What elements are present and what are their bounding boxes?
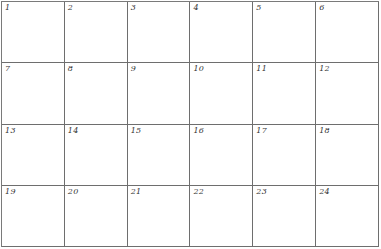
grid-cell-13: 13 [2, 125, 65, 186]
grid-cell-4: 4 [190, 2, 253, 63]
grid-cell-24: 24 [316, 186, 379, 247]
grid-cell-2: 2 [65, 2, 128, 63]
grid-cell-22: 22 [190, 186, 253, 247]
cell-number: 3 [131, 3, 136, 12]
cell-number: 12 [319, 64, 330, 73]
cell-number: 14 [68, 126, 79, 135]
cell-number: 11 [256, 64, 267, 73]
grid-cell-7: 7 [2, 63, 65, 124]
cell-number: 21 [131, 187, 142, 196]
grid-cell-1: 1 [2, 2, 65, 63]
cell-number: 17 [256, 126, 267, 135]
grid-cell-14: 14 [65, 125, 128, 186]
grid-cell-8: 8 [65, 63, 128, 124]
grid-cell-21: 21 [128, 186, 191, 247]
grid-cell-15: 15 [128, 125, 191, 186]
numbered-grid: 1 2 3 4 5 6 7 8 9 10 11 12 13 14 15 16 1… [1, 1, 379, 247]
grid-cell-17: 17 [253, 125, 316, 186]
cell-number: 1 [5, 3, 10, 12]
cell-number: 10 [193, 64, 204, 73]
cell-number: 5 [256, 3, 261, 12]
cell-number: 23 [256, 187, 267, 196]
grid-cell-18: 18 [316, 125, 379, 186]
cell-number: 13 [5, 126, 16, 135]
grid-cell-20: 20 [65, 186, 128, 247]
cell-number: 15 [131, 126, 142, 135]
grid-cell-9: 9 [128, 63, 191, 124]
grid-cell-12: 12 [316, 63, 379, 124]
cell-number: 18 [319, 126, 330, 135]
grid-cell-11: 11 [253, 63, 316, 124]
cell-number: 24 [319, 187, 330, 196]
cell-number: 9 [131, 64, 136, 73]
cell-number: 19 [5, 187, 16, 196]
cell-number: 7 [5, 64, 10, 73]
cell-number: 16 [193, 126, 204, 135]
grid-cell-10: 10 [190, 63, 253, 124]
grid-cell-5: 5 [253, 2, 316, 63]
grid-cell-19: 19 [2, 186, 65, 247]
grid-cell-6: 6 [316, 2, 379, 63]
grid-cell-3: 3 [128, 2, 191, 63]
grid-cell-23: 23 [253, 186, 316, 247]
grid-cell-16: 16 [190, 125, 253, 186]
cell-number: 20 [68, 187, 79, 196]
cell-number: 6 [319, 3, 324, 12]
cell-number: 22 [193, 187, 204, 196]
cell-number: 2 [68, 3, 73, 12]
cell-number: 8 [68, 64, 73, 73]
cell-number: 4 [193, 3, 198, 12]
